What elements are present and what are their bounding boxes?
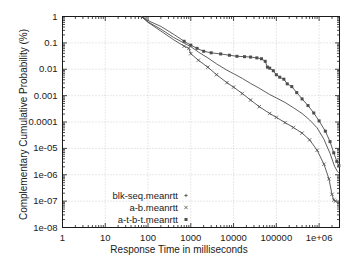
y-tick-label: 1e-07 [10,195,58,206]
y-tick-label: 0.001 [10,90,58,101]
series-0 [141,17,338,173]
y-tick-label: 1 [10,11,58,22]
y-tick-label: 0.01 [10,63,58,74]
legend-markers [184,194,187,221]
x-tick-label: 1e+06 [289,232,349,243]
legend-item-1: a-b.meanrtt [68,202,178,213]
y-tick-label: 0.1 [10,37,58,48]
legend-item-2: a-t-b-t.meanrtt [68,214,178,225]
x-axis-title: Response Time in milliseconds [0,244,358,255]
legend-item-0: blk-seq.meanrtt [68,190,178,201]
chart-container: Complementary Cumulative Probability (%)… [0,0,358,268]
y-tick-label: 1e-05 [10,142,58,153]
y-tick-label: 0.0001 [10,116,58,127]
y-tick-label: 1e-06 [10,169,58,180]
